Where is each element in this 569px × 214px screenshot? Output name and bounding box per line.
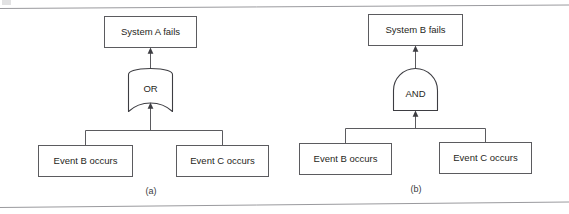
basic-event-label: Event B occurs [54, 155, 118, 166]
diagram-b-basic-event-right-box: Event C occurs [440, 143, 532, 174]
top-event-label: System A fails [121, 26, 180, 37]
top-horizontal-rule [0, 5, 569, 9]
bottom-horizontal-rule [0, 202, 569, 208]
basic-event-label: Event C occurs [453, 152, 518, 163]
top-event-label: System B fails [385, 24, 445, 35]
diagram-a: System A fails OR Event B occurs [39, 17, 269, 197]
and-gate-label: AND [405, 88, 425, 99]
fault-tree-figure: System A fails OR Event B occurs [0, 0, 569, 214]
diagram-a-basic-event-left-box: Event B occurs [39, 146, 133, 177]
diagram-a-caption: (a) [146, 186, 157, 196]
basic-event-label: Event C occurs [190, 155, 255, 166]
diagram-b-and-gate: AND [394, 69, 438, 111]
diagram-b-caption: (b) [411, 184, 422, 194]
gate-output-arrowhead [413, 46, 419, 52]
diagram-b-top-event-box: System B fails [369, 15, 463, 46]
gate-output-arrowhead [148, 48, 154, 54]
diagram-a-top-event-box: System A fails [105, 17, 197, 48]
gate-input-arrowhead [413, 111, 419, 117]
diagram-b: System B fails AND Event B occurs [300, 15, 532, 195]
fault-tree-canvas: System A fails OR Event B occurs [0, 0, 569, 214]
diagram-a-basic-event-right-box: Event C occurs [177, 146, 269, 177]
diagram-b-basic-event-left-box: Event B occurs [300, 144, 392, 175]
basic-event-label: Event B occurs [314, 153, 378, 164]
or-gate-label: OR [143, 83, 157, 94]
